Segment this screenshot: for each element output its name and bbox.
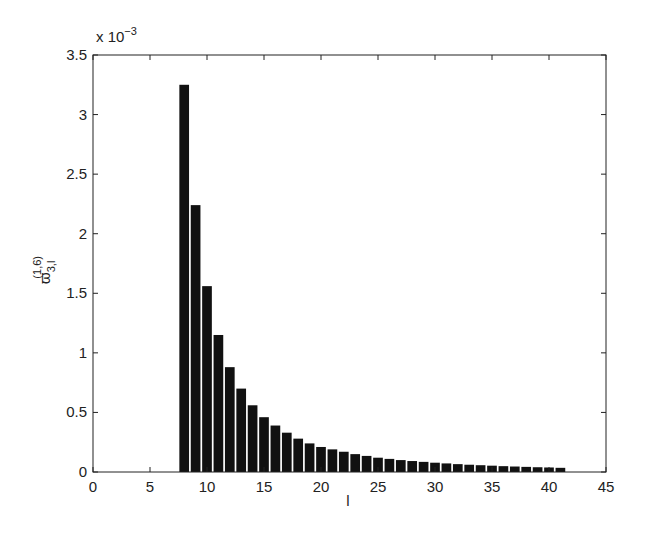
bar <box>396 460 406 472</box>
bar <box>407 461 417 472</box>
bar <box>271 426 281 472</box>
x-tick-label: 40 <box>541 478 558 495</box>
bar <box>419 462 429 472</box>
x-tick-label: 0 <box>89 478 97 495</box>
bar <box>533 467 543 472</box>
y-tick-label: 0.5 <box>66 403 87 420</box>
x-tick-label: 45 <box>598 478 615 495</box>
bar <box>305 443 315 472</box>
y-tick-label: 3 <box>79 106 87 123</box>
y-multiplier: x 10−3 <box>96 25 137 45</box>
bar <box>282 433 292 472</box>
bar <box>556 468 566 472</box>
y-axis-ticks: 00.511.522.533.5 <box>66 46 606 480</box>
bar <box>510 467 520 472</box>
x-tick-label: 20 <box>313 478 330 495</box>
axes-box <box>93 55 606 472</box>
x-axis-label: l <box>346 492 349 509</box>
y-tick-label: 2.5 <box>66 165 87 182</box>
bar <box>328 449 338 472</box>
bar <box>202 286 212 472</box>
bar <box>214 335 224 472</box>
bar <box>385 459 395 472</box>
y-tick-label: 3.5 <box>66 46 87 63</box>
y-tick-label: 1.5 <box>66 284 87 301</box>
bar <box>362 456 372 472</box>
bar <box>464 465 474 472</box>
y-tick-label: 1 <box>79 344 87 361</box>
bar <box>499 466 509 472</box>
bar <box>236 389 246 472</box>
bar-chart: 051015202530354045 00.511.522.533.5 x 10… <box>0 0 647 534</box>
y-tick-label: 0 <box>79 463 87 480</box>
y-axis-label: ϖ3,l(1,6) <box>31 256 57 284</box>
bar <box>339 452 349 472</box>
x-tick-label: 30 <box>427 478 444 495</box>
bar <box>179 85 189 472</box>
bar <box>191 205 201 472</box>
bars <box>179 85 565 472</box>
bar <box>442 463 452 472</box>
bar <box>248 405 258 472</box>
x-axis-ticks: 051015202530354045 <box>89 55 615 495</box>
bar <box>350 454 360 472</box>
x-tick-label: 35 <box>484 478 501 495</box>
bar <box>453 464 463 472</box>
bar <box>225 367 235 472</box>
y-tick-label: 2 <box>79 225 87 242</box>
x-tick-label: 5 <box>146 478 154 495</box>
x-tick-label: 10 <box>199 478 216 495</box>
x-tick-label: 25 <box>370 478 387 495</box>
bar <box>259 417 269 472</box>
svg-text:ϖ3,l(1,6): ϖ3,l(1,6) <box>31 256 57 284</box>
bar <box>476 465 486 472</box>
x-tick-label: 15 <box>256 478 273 495</box>
bar <box>521 467 531 472</box>
bar <box>293 439 303 472</box>
